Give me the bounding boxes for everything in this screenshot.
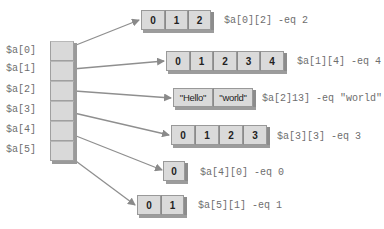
array-cell: 4 [260,51,284,71]
array-cell: 0 [163,161,185,181]
array-cell: 0 [171,125,195,145]
expression-label-1: $a[1][4] -eq 4 [297,56,381,68]
array-cell: "world" [213,88,253,107]
expression-label-4: $a[4][0] -eq 0 [200,167,284,179]
array-4-shadow [166,181,188,184]
outer-cell-2 [50,81,74,101]
outer-cell-0 [50,41,74,61]
inner-array-2: "Hello" "world" [173,88,253,107]
inner-array-0: 0 1 2 [141,10,211,30]
array-1-shadow [168,71,287,74]
array-cell: 0 [166,51,190,71]
array-3-shadow [173,145,270,148]
expression-label-5: $a[5][1] -eq 1 [198,200,282,212]
array-cell: 2 [213,51,237,71]
expression-label-0: $a[0][2] -eq 2 [224,15,308,27]
outer-cell-4 [50,121,74,141]
outer-label-4: $a[4] [6,124,36,136]
outer-label-1: $a[1] [6,63,36,75]
array-cell: 3 [243,125,267,145]
array-cell: 0 [141,10,165,30]
array-cell: "Hello" [173,88,213,107]
inner-array-5: 0 1 [137,195,184,215]
array-cell: 1 [190,51,213,71]
array-cell: 0 [137,195,161,215]
array-cell: 1 [165,10,188,30]
outer-label-3: $a[3] [6,104,36,116]
outer-cell-1 [50,61,74,81]
outer-array-shadow [74,43,77,163]
array-2-shadow [175,107,256,110]
array-cell: 1 [161,195,184,215]
outer-label-5: $a[5] [6,144,36,156]
outer-array-shadow [52,161,77,164]
inner-array-4: 0 [163,161,185,181]
array-cell: 3 [237,51,260,71]
array-0-shadow [143,30,214,33]
outer-array [50,41,74,161]
array-cell: 1 [195,125,219,145]
outer-cell-5 [50,141,74,161]
outer-cell-3 [50,101,74,121]
array-cell: 2 [188,10,211,30]
outer-label-2: $a[2] [6,84,36,96]
outer-label-0: $a[0] [6,45,36,57]
expression-label-3: $a[3][3] -eq 3 [277,131,361,143]
array-5-shadow [139,215,187,218]
array-cell: 2 [219,125,243,145]
inner-array-3: 0 1 2 3 [171,125,267,145]
expression-label-2: $a[2]13] -eq "world" [262,93,382,105]
inner-array-1: 0 1 2 3 4 [166,51,284,71]
jagged-array-diagram: $a[0] $a[1] $a[2] $a[3] $a[4] $a[5] 0 1 … [0,0,384,229]
